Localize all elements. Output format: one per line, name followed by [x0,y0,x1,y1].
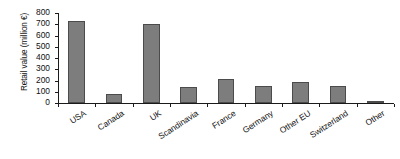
y-tick-label: 100 [24,86,50,97]
x-axis-line [58,103,394,104]
x-tick [170,104,171,107]
x-axis-label-usa: USA [68,108,88,126]
y-axis-line [58,13,59,103]
x-tick [95,104,96,107]
y-tick-label: 800 [24,7,50,18]
y-tick-200: 200 [55,81,58,82]
bar-other [367,101,383,103]
x-tick [245,104,246,107]
x-tick [357,104,358,107]
y-tick-700: 700 [55,24,58,25]
y-tick-600: 600 [55,36,58,37]
x-tick [207,104,208,107]
x-axis-label-scandinavia: Scandinavia [156,108,200,141]
y-tick-label: 700 [24,18,50,29]
bar-germany [255,86,271,103]
y-tick-400: 400 [55,58,58,59]
bar-usa [68,21,84,103]
x-axis-label-uk: UK [148,108,163,123]
bar-france [218,79,234,103]
y-tick-800: 800 [55,13,58,14]
x-tick [319,104,320,107]
y-tick-label: 500 [24,41,50,52]
y-tick-100: 100 [55,92,58,93]
x-tick [394,104,395,107]
x-axis-labels: USACanadaUKScandinaviaFranceGermanyOther… [58,108,394,159]
y-tick-label: 0 [24,97,50,108]
x-axis-label-other: Other [364,108,387,128]
y-tick-300: 300 [55,69,58,70]
x-axis-label-germany: Germany [240,108,274,135]
bar-other-eu [292,82,308,103]
x-tick [58,104,59,107]
bar-chart-figure: Retail value (million €) 800700600500400… [0,0,400,159]
x-tick [133,104,134,107]
plot-area: 8007006005004003002001000 [58,13,394,103]
y-tick-label: 600 [24,30,50,41]
bar-switzerland [330,86,346,103]
bar-scandinavia [180,87,196,103]
x-axis-label-canada: Canada [95,108,125,132]
y-tick-label: 200 [24,75,50,86]
y-tick-label: 400 [24,52,50,63]
y-tick-label: 300 [24,63,50,74]
y-tick-500: 500 [55,47,58,48]
x-axis-label-france: France [210,108,237,131]
bar-canada [106,94,122,103]
x-tick [282,104,283,107]
bar-uk [143,24,159,103]
x-axis-label-switzerland: Switzerland [308,108,350,140]
